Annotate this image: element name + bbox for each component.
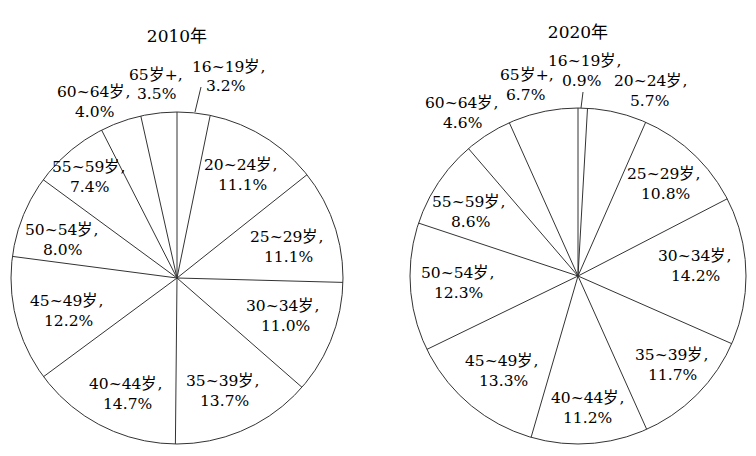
svg-text:11.2%: 11.2%: [563, 409, 612, 427]
slice-label-0-9-pct-2020: 0.9%: [562, 72, 601, 90]
leader-line-16-19-2010: [195, 87, 201, 112]
svg-text:20~24岁,: 20~24岁,: [614, 72, 687, 90]
svg-text:60~64岁,: 60~64岁,: [425, 94, 498, 112]
pie-title-2010: 2010年: [147, 26, 207, 46]
pie-2020: 2020年 16~19岁, 0.9% 20~24岁, 5.7% 25~29岁, …: [410, 22, 746, 444]
svg-text:11.7%: 11.7%: [648, 366, 697, 384]
svg-text:30~34岁,: 30~34岁,: [246, 297, 319, 315]
svg-text:6.7%: 6.7%: [506, 86, 545, 104]
svg-text:13.7%: 13.7%: [200, 392, 249, 410]
slice-label-60-64-2010: 60~64岁, 4.0%: [57, 83, 130, 121]
svg-text:16~19岁,: 16~19岁,: [192, 58, 265, 76]
slice-label-60-64-2020: 60~64岁, 4.6%: [425, 94, 498, 132]
svg-text:12.3%: 12.3%: [434, 284, 483, 302]
svg-text:35~39岁,: 35~39岁,: [635, 346, 708, 364]
slice-label-65plus-2010: 65岁+, 3.5%: [129, 66, 183, 103]
svg-text:16~19岁,: 16~19岁,: [548, 52, 621, 70]
leader-line-16-19-2020: [581, 92, 583, 108]
svg-text:50~54岁,: 50~54岁,: [25, 221, 98, 239]
chart-canvas: 2010年 16~19岁, 3.2% 20~24岁, 11.1% 25~29岁,…: [0, 0, 756, 456]
svg-text:0.9%: 0.9%: [562, 72, 601, 90]
svg-text:65岁+,: 65岁+,: [129, 66, 183, 84]
svg-text:50~54岁,: 50~54岁,: [421, 264, 494, 282]
svg-text:8.0%: 8.0%: [43, 241, 82, 259]
pie-2010: 2010年 16~19岁, 3.2% 20~24岁, 11.1% 25~29岁,…: [11, 26, 343, 444]
svg-text:11.1%: 11.1%: [264, 248, 313, 266]
svg-text:7.4%: 7.4%: [70, 178, 109, 196]
svg-text:14.7%: 14.7%: [103, 395, 152, 413]
svg-text:3.2%: 3.2%: [206, 77, 245, 95]
svg-text:60~64岁,: 60~64岁,: [57, 83, 130, 101]
svg-text:40~44岁,: 40~44岁,: [551, 389, 624, 407]
svg-text:65岁+,: 65岁+,: [500, 66, 554, 84]
svg-text:13.3%: 13.3%: [479, 372, 528, 390]
svg-text:45~49岁,: 45~49岁,: [465, 352, 538, 370]
svg-text:25~29岁,: 25~29岁,: [627, 165, 700, 183]
svg-text:40~44岁,: 40~44岁,: [89, 375, 162, 393]
slice-label-65plus-2020: 65岁+, 6.7%: [500, 66, 554, 104]
svg-text:35~39岁,: 35~39岁,: [186, 372, 259, 390]
svg-text:12.2%: 12.2%: [44, 312, 93, 330]
svg-text:25~29岁,: 25~29岁,: [250, 228, 323, 246]
svg-text:11.1%: 11.1%: [218, 176, 267, 194]
slice-label-20-24-2020: 20~24岁, 5.7%: [614, 72, 687, 110]
svg-text:10.8%: 10.8%: [641, 185, 690, 203]
slice-label-16-19-2020: 16~19岁,: [548, 52, 621, 70]
svg-text:5.7%: 5.7%: [630, 92, 669, 110]
svg-text:8.6%: 8.6%: [451, 213, 490, 231]
svg-text:30~34岁,: 30~34岁,: [658, 247, 731, 265]
svg-text:4.0%: 4.0%: [75, 103, 114, 121]
svg-text:45~49岁,: 45~49岁,: [30, 292, 103, 310]
svg-text:20~24岁,: 20~24岁,: [204, 156, 277, 174]
svg-text:55~59岁,: 55~59岁,: [52, 158, 125, 176]
svg-text:55~59岁,: 55~59岁,: [432, 193, 505, 211]
slice-label-16-19-2010: 16~19岁, 3.2%: [192, 58, 265, 95]
svg-text:4.6%: 4.6%: [443, 114, 482, 132]
svg-text:14.2%: 14.2%: [671, 267, 720, 285]
svg-text:11.0%: 11.0%: [261, 317, 310, 335]
svg-text:3.5%: 3.5%: [137, 85, 176, 103]
pie-title-2020: 2020年: [548, 22, 608, 42]
